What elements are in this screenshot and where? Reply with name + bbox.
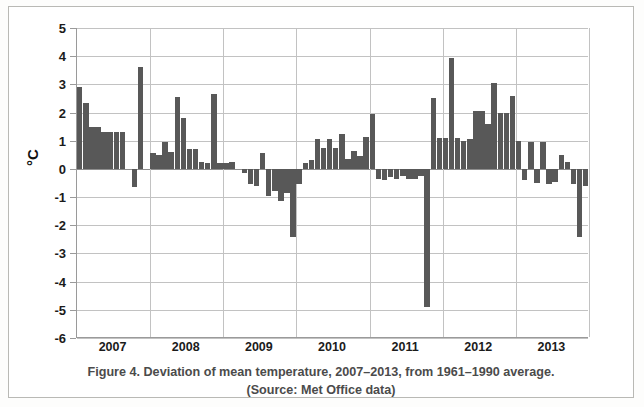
gridline-vertical bbox=[223, 28, 224, 337]
chart-bar bbox=[114, 132, 119, 169]
y-axis-title: °C bbox=[24, 149, 41, 166]
chart-bar bbox=[217, 163, 222, 169]
y-axis-tick-mark bbox=[70, 253, 76, 254]
chart-bar bbox=[229, 162, 234, 169]
x-axis-tick-label: 2009 bbox=[222, 341, 295, 354]
y-axis-tick-label: 4 bbox=[40, 50, 66, 63]
chart-bar bbox=[443, 138, 448, 169]
chart-bar bbox=[431, 98, 436, 168]
chart-bar bbox=[473, 111, 478, 169]
chart-bar bbox=[559, 155, 564, 169]
chart-bar bbox=[412, 169, 417, 179]
chart-bar bbox=[449, 58, 454, 169]
chart-bar bbox=[211, 94, 216, 169]
chart-bar bbox=[120, 132, 125, 169]
chart-bar bbox=[272, 169, 277, 192]
chart-bar bbox=[357, 156, 362, 169]
chart-bar bbox=[296, 169, 301, 185]
chart-bar bbox=[455, 138, 460, 169]
chart-bar bbox=[303, 163, 308, 169]
chart-bar bbox=[266, 169, 271, 196]
chart-bar bbox=[83, 103, 88, 169]
chart-bar bbox=[193, 149, 198, 169]
chart-bar bbox=[168, 152, 173, 169]
figure-page: °C 543210-1-2-3-4-5-62007200820092010201… bbox=[0, 0, 644, 407]
chart-bar bbox=[461, 141, 466, 169]
chart-bar bbox=[571, 169, 576, 185]
y-axis-tick-label: -4 bbox=[40, 276, 66, 289]
gridline-vertical bbox=[370, 28, 371, 337]
chart-bar bbox=[479, 111, 484, 169]
gridline-horizontal bbox=[77, 56, 588, 57]
chart-bar bbox=[370, 114, 375, 169]
y-axis-tick-mark bbox=[70, 197, 76, 198]
x-axis-tick-label: 2008 bbox=[149, 341, 222, 354]
chart-bar bbox=[162, 142, 167, 169]
chart-bar bbox=[77, 87, 82, 169]
gridline-horizontal bbox=[77, 282, 588, 283]
chart-bar bbox=[540, 142, 545, 169]
chart-bar bbox=[175, 97, 180, 169]
y-axis-tick-label: 2 bbox=[40, 107, 66, 120]
chart-bar bbox=[339, 134, 344, 169]
chart-bar bbox=[351, 151, 356, 169]
chart-bar bbox=[437, 138, 442, 169]
chart-bar bbox=[583, 169, 588, 186]
chart-bar bbox=[260, 153, 265, 169]
chart-bar bbox=[528, 142, 533, 169]
chart-container: °C 543210-1-2-3-4-5-62007200820092010201… bbox=[0, 0, 644, 360]
y-axis-tick-label: 3 bbox=[40, 78, 66, 91]
chart-bar bbox=[107, 132, 112, 169]
gridline-horizontal bbox=[77, 225, 588, 226]
y-axis-tick-mark bbox=[70, 282, 76, 283]
y-axis-tick-mark bbox=[70, 225, 76, 226]
chart-bar bbox=[363, 137, 368, 169]
caption-line-2: (Source: Met Office data) bbox=[8, 381, 634, 399]
chart-bar bbox=[546, 169, 551, 185]
chart-bar bbox=[504, 113, 509, 169]
y-axis-tick-label: -3 bbox=[40, 247, 66, 260]
chart-bar bbox=[321, 148, 326, 169]
chart-bar bbox=[278, 169, 283, 201]
chart-bar bbox=[223, 163, 228, 169]
gridline-horizontal bbox=[77, 28, 588, 29]
y-axis-tick-mark bbox=[70, 56, 76, 57]
y-axis-tick-label: 1 bbox=[40, 135, 66, 148]
chart-bar bbox=[345, 159, 350, 169]
chart-bar bbox=[498, 113, 503, 169]
x-axis-tick-label: 2011 bbox=[369, 341, 442, 354]
x-axis-tick-label: 2013 bbox=[515, 341, 588, 354]
chart-bar bbox=[132, 169, 137, 187]
chart-bar bbox=[565, 162, 570, 169]
chart-bar bbox=[534, 169, 539, 183]
gridline-horizontal bbox=[77, 338, 588, 339]
chart-bar bbox=[181, 118, 186, 169]
chart-bar bbox=[522, 169, 527, 180]
y-axis-tick-label: 0 bbox=[40, 163, 66, 176]
y-axis-tick-label: 5 bbox=[40, 22, 66, 35]
chart-bar bbox=[290, 169, 295, 237]
caption-line-1: Figure 4. Deviation of mean temperature,… bbox=[8, 363, 634, 381]
chart-bar bbox=[248, 169, 253, 185]
y-axis-tick-mark bbox=[70, 84, 76, 85]
chart-bar bbox=[406, 169, 411, 179]
gridline-vertical bbox=[443, 28, 444, 337]
chart-bar bbox=[577, 169, 582, 237]
chart-bar bbox=[491, 83, 496, 169]
chart-bar bbox=[552, 169, 557, 182]
figure-caption: Figure 4. Deviation of mean temperature,… bbox=[8, 363, 634, 400]
chart-bar bbox=[418, 169, 423, 176]
chart-bar bbox=[485, 124, 490, 169]
chart-bar bbox=[150, 153, 155, 169]
chart-bar bbox=[327, 139, 332, 169]
chart-bar bbox=[424, 169, 429, 307]
chart-bar bbox=[333, 148, 338, 169]
y-axis-tick-label: -2 bbox=[40, 219, 66, 232]
x-axis-tick-label: 2010 bbox=[295, 341, 368, 354]
chart-bar bbox=[156, 155, 161, 169]
gridline-horizontal bbox=[77, 197, 588, 198]
chart-bar bbox=[516, 141, 521, 169]
chart-bar bbox=[89, 127, 94, 169]
chart-bar bbox=[95, 127, 100, 169]
y-axis-tick-mark bbox=[70, 169, 76, 170]
